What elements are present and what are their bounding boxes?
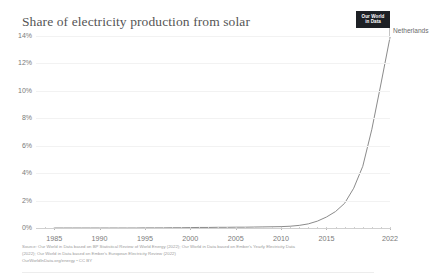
y-axis-tick-label: 10% — [4, 87, 32, 94]
x-axis-minor-tick — [317, 227, 318, 229]
x-axis-minor-tick — [208, 227, 209, 229]
x-axis-tick-label: 1995 — [137, 234, 153, 243]
x-axis-minor-tick — [172, 227, 173, 229]
x-axis-minor-tick — [326, 227, 327, 229]
x-axis-minor-tick — [109, 227, 110, 229]
y-axis-tick-label: 14% — [4, 32, 32, 39]
x-axis-minor-tick — [154, 227, 155, 229]
x-axis-minor-tick — [372, 227, 373, 229]
x-axis-minor-tick — [390, 227, 391, 229]
y-axis-tick-label: 8% — [4, 114, 32, 121]
gridline — [36, 146, 390, 147]
x-axis-tick-label: 1985 — [46, 234, 62, 243]
series-netherlands — [36, 36, 390, 228]
x-axis-minor-tick — [45, 227, 46, 229]
x-axis-minor-tick — [263, 227, 264, 229]
axis-baseline — [36, 228, 390, 229]
x-axis-minor-tick — [381, 227, 382, 229]
chart-footer: Source: Our World in Data based on BP St… — [22, 243, 374, 264]
y-axis-tick-label: 12% — [4, 59, 32, 66]
x-axis-minor-tick — [363, 227, 364, 229]
page-title: Share of electricity production from sol… — [22, 14, 250, 30]
x-axis-minor-tick — [245, 227, 246, 229]
x-axis-minor-tick — [199, 227, 200, 229]
x-axis-tick-label: 2000 — [182, 234, 198, 243]
source-line-1: Source: Our World in Data based on BP St… — [22, 243, 374, 250]
x-axis-minor-tick — [281, 227, 282, 229]
our-world-in-data-logo[interactable]: Our World in Data — [356, 11, 390, 28]
x-axis-minor-tick — [54, 227, 55, 229]
logo-line-2: in Data — [365, 20, 381, 25]
x-axis-minor-tick — [90, 227, 91, 229]
gridline — [36, 173, 390, 174]
x-axis-minor-tick — [100, 227, 101, 229]
x-axis-minor-tick — [336, 227, 337, 229]
x-axis-tick-label: 2022 — [382, 234, 398, 243]
line-path-netherlands — [54, 37, 390, 228]
x-axis-minor-tick — [236, 227, 237, 229]
x-axis-tick-label: 2010 — [273, 234, 289, 243]
x-axis-minor-tick — [118, 227, 119, 229]
x-axis-tick-label: 1990 — [92, 234, 108, 243]
x-axis-minor-tick — [190, 227, 191, 229]
x-axis-tick-label: 2015 — [318, 234, 334, 243]
x-axis-minor-tick — [218, 227, 219, 229]
x-axis-minor-tick — [308, 227, 309, 229]
x-axis-minor-tick — [227, 227, 228, 229]
x-axis-minor-tick — [272, 227, 273, 229]
x-axis-minor-tick — [299, 227, 300, 229]
x-axis-minor-tick — [63, 227, 64, 229]
x-axis-minor-tick — [163, 227, 164, 229]
x-axis-tick-label: 2005 — [228, 234, 244, 243]
x-axis-minor-tick — [145, 227, 146, 229]
x-axis-minor-tick — [290, 227, 291, 229]
x-axis-minor-tick — [136, 227, 137, 229]
x-axis-minor-tick — [345, 227, 346, 229]
x-axis-minor-tick — [354, 227, 355, 229]
license-line[interactable]: OurWorldInData.org/energy • CC BY — [22, 257, 374, 264]
y-axis-tick-label: 2% — [4, 197, 32, 204]
x-axis-minor-tick — [81, 227, 82, 229]
series-label-netherlands: Netherlands — [393, 27, 429, 34]
gridline — [36, 91, 390, 92]
y-axis-tick-label: 4% — [4, 169, 32, 176]
gridline — [36, 118, 390, 119]
source-line-2: (2022); Our World in Data based on Ember… — [22, 250, 374, 257]
x-axis-minor-tick — [254, 227, 255, 229]
gridline — [36, 201, 390, 202]
x-axis-minor-tick — [72, 227, 73, 229]
gridline — [36, 63, 390, 64]
y-axis-tick-label: 0% — [4, 224, 32, 231]
footer-divider — [22, 272, 374, 273]
series-label-connector — [389, 28, 390, 40]
x-axis-minor-tick — [127, 227, 128, 229]
y-axis-tick-label: 6% — [4, 142, 32, 149]
gridline — [36, 36, 390, 37]
x-axis-minor-tick — [181, 227, 182, 229]
plot-area: Netherlands 0%2%4%6%8%10%12%14%198519901… — [36, 36, 390, 228]
